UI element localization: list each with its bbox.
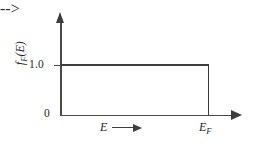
x-axis-title: E [100, 120, 142, 135]
curve-drop-segment [208, 64, 210, 115]
y-axis-title: fF(E) [13, 23, 29, 83]
y-axis-arrow-icon [56, 12, 64, 23]
x-axis-direction-arrow-icon [112, 123, 142, 132]
y-tick-label-one: 1.0 [29, 58, 44, 70]
y-axis-tick-1.0 [54, 65, 61, 66]
fermi-energy-label: EF [199, 120, 212, 136]
y-axis-title-function: f [13, 62, 27, 65]
curve-plateau-segment [61, 64, 209, 66]
x-axis-arrow-icon [231, 110, 242, 120]
y-axis-title-argument: (E) [13, 41, 27, 56]
fermi-dirac-step-chart: 1.0 0 fF(E) --> E EF [0, 0, 256, 146]
fermi-energy-label-subscript: F [206, 126, 211, 136]
x-axis-title-label: E [100, 120, 107, 135]
origin-tick-label: 0 [44, 107, 50, 119]
y-axis-line [60, 20, 62, 116]
y-axis-title-subscript: F [19, 57, 29, 62]
